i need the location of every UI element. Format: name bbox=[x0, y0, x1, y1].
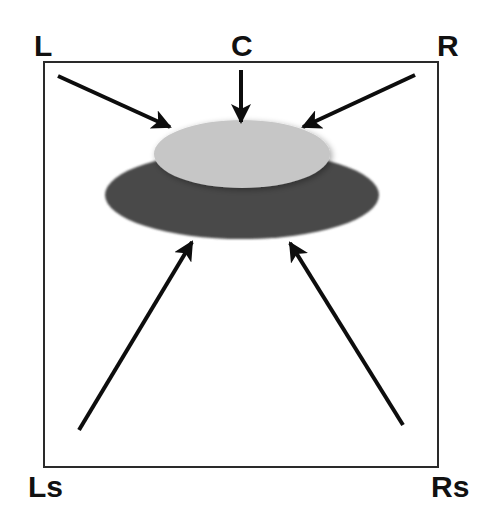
arrow-left-surround-icon bbox=[79, 242, 192, 430]
surround-diagram: L C R Ls Rs bbox=[0, 0, 496, 531]
speaker-label-l: L bbox=[34, 29, 52, 62]
speaker-label-rs: Rs bbox=[431, 470, 469, 503]
speaker-label-r: R bbox=[437, 29, 459, 62]
listening-area-inner bbox=[154, 120, 330, 188]
speaker-label-ls: Ls bbox=[28, 470, 63, 503]
arrow-right-icon bbox=[303, 75, 415, 127]
arrow-right-surround-icon bbox=[290, 243, 403, 425]
speaker-label-c: C bbox=[231, 29, 253, 62]
arrow-left-icon bbox=[58, 76, 170, 127]
